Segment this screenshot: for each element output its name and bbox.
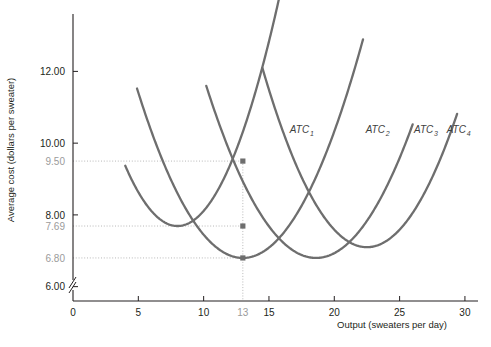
x-tick-label-20: 20	[329, 307, 341, 318]
data-point-marker-3	[240, 255, 245, 260]
curve-label-ATC3: ATC3	[413, 124, 438, 137]
curve-label-ATC2: ATC2	[365, 124, 390, 137]
data-point-marker-2	[240, 223, 245, 228]
x-tick-label-30: 30	[459, 307, 471, 318]
x-axis-title: Output (sweaters per day)	[337, 319, 447, 330]
guide-lines-group	[73, 161, 243, 301]
y-tick-label-6.80: 6.80	[46, 253, 66, 264]
x-tick-label-10: 10	[198, 307, 210, 318]
y-axis-title: Average cost (dollars per sweater)	[5, 78, 16, 223]
curve-labels-group: ATC1ATC2ATC3ATC4	[289, 124, 471, 137]
x-tick-label-15: 15	[263, 307, 275, 318]
x-tick-label-0: 0	[70, 307, 76, 318]
curve-ATC1	[125, 0, 280, 226]
curve-label-subscript-ATC3: 3	[434, 130, 438, 137]
curve-label-subscript-ATC1: 1	[310, 130, 314, 137]
y-tick-label-7.69: 7.69	[46, 221, 66, 232]
y-tick-label-9.50: 9.50	[46, 156, 66, 167]
curve-label-text-ATC3: ATC	[413, 124, 434, 135]
curve-ATC3	[206, 86, 412, 258]
x-tick-label-25: 25	[394, 307, 406, 318]
tick-marks-group	[73, 71, 465, 301]
curve-label-ATC1: ATC1	[289, 124, 314, 137]
curve-label-text-ATC1: ATC	[289, 124, 310, 135]
y-tick-label-8.00: 8.00	[46, 210, 66, 221]
x-tick-label-13: 13	[237, 307, 249, 318]
chart-canvas: 12.0010.009.508.007.696.806.000510131520…	[0, 0, 491, 347]
curve-label-text-ATC4: ATC	[446, 124, 467, 135]
curve-label-subscript-ATC4: 4	[467, 130, 471, 137]
curve-label-text-ATC2: ATC	[365, 124, 386, 135]
axis-titles-group: Output (sweaters per day) Average cost (…	[5, 78, 447, 330]
tick-labels-group: 12.0010.009.508.007.696.806.000510131520…	[40, 66, 471, 318]
axes-group	[69, 14, 478, 301]
y-tick-label-6.00: 6.00	[46, 281, 66, 292]
average-total-cost-chart: 12.0010.009.508.007.696.806.000510131520…	[0, 0, 491, 347]
data-point-marker-1	[240, 158, 245, 163]
y-tick-label-10.00: 10.00	[40, 138, 65, 149]
x-tick-label-5: 5	[136, 307, 142, 318]
y-tick-label-12.00: 12.00	[40, 66, 65, 77]
curve-label-subscript-ATC2: 2	[385, 130, 390, 137]
